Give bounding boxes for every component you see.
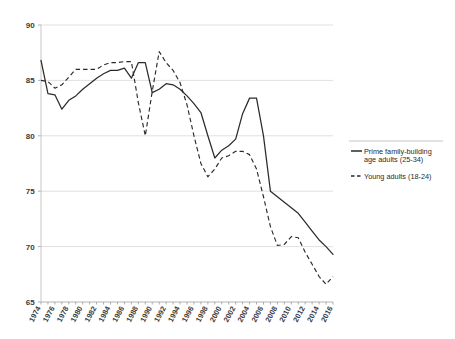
y-axis-tick-label: 80: [26, 132, 36, 141]
line-chart: 657075808590 197419761978198019821984198…: [0, 0, 455, 339]
y-axis-tick-label: 75: [26, 187, 36, 196]
y-axis-tick-label: 90: [26, 21, 36, 30]
legend-label-1-line2: age adults (25-34): [364, 155, 423, 164]
legend-label-2: Young adults (18-24): [364, 172, 431, 181]
y-axis-tick-label: 85: [26, 76, 36, 85]
chart-canvas: 657075808590 197419761978198019821984198…: [0, 0, 455, 339]
chart-background: [0, 0, 455, 339]
y-axis-tick-label: 70: [26, 243, 36, 252]
